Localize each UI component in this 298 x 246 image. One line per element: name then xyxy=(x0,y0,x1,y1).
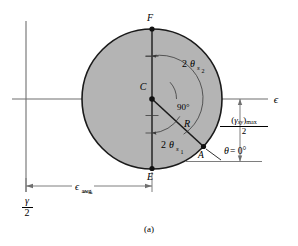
right-angle-label: 90° xyxy=(177,102,190,112)
angle-s2-sub2: 2 xyxy=(202,68,205,74)
mohrs-circle-figure: ϵ F C E A R 90° 2 θ s 2 2 θ s 1 θ = 0° xyxy=(0,0,298,246)
point-label-E: E xyxy=(146,171,153,182)
angle-s2-symbol: θ xyxy=(190,58,195,69)
angle-s2-prefix: 2 xyxy=(182,58,187,69)
eps-avg-arrow-right xyxy=(145,184,152,189)
gamma-max-numerator: (γxy)max xyxy=(210,116,278,126)
theta-zero-symbol: θ xyxy=(224,145,229,156)
vertical-axis-numerator: γ xyxy=(14,196,40,207)
gamma-max-denominator: 2 xyxy=(210,127,278,136)
vertical-axis-label: γ 2 xyxy=(14,196,40,218)
gamma-max-arrow-top xyxy=(238,99,242,105)
vertical-axis-denominator: 2 xyxy=(14,208,40,219)
theta-zero-label: θ = 0° xyxy=(224,145,246,156)
point-label-F: F xyxy=(146,12,154,23)
theta-zero-equals: = 0° xyxy=(230,146,246,156)
point-label-C: C xyxy=(140,81,147,92)
gamma-max-max: max xyxy=(246,119,257,125)
angle-s1-symbol: θ xyxy=(169,139,174,150)
eps-avg-arrow-left xyxy=(26,184,33,189)
figure-caption: (a) xyxy=(0,224,298,234)
angle-s1-sub: s xyxy=(176,145,179,153)
theta-zero-leader xyxy=(206,149,221,160)
axis-label-epsilon: ϵ xyxy=(274,93,279,105)
angle-s1-prefix: 2 xyxy=(161,139,166,150)
gamma-max-arrow-bottom xyxy=(238,156,242,162)
point-F-dot xyxy=(149,26,154,31)
point-C-dot xyxy=(149,96,155,102)
radius-label: R xyxy=(183,118,190,129)
eps-avg-sub-front: avg xyxy=(82,187,93,195)
angle-s2-sub: s xyxy=(197,64,200,72)
point-label-A: A xyxy=(197,150,204,160)
angle-s1-sub2: 1 xyxy=(181,149,184,155)
gamma-max-label: (γxy)max 2 xyxy=(210,116,278,136)
point-A-dot xyxy=(201,144,206,149)
